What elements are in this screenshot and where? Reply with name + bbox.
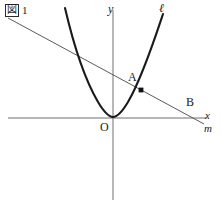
point-a-marker <box>139 88 144 93</box>
line-label-m: m <box>204 123 212 134</box>
figure-number: 1 <box>22 5 28 16</box>
y-axis-label: y <box>108 3 113 15</box>
figure-canvas: 図 1 y x ℓ m A B O <box>0 0 221 203</box>
point-a-label: A <box>128 71 137 83</box>
point-b-label: B <box>186 96 194 108</box>
x-axis-label: x <box>205 110 210 121</box>
curve-label-ell: ℓ <box>159 2 164 14</box>
figure-kanji-glyph: 図 <box>5 4 19 17</box>
origin-label: O <box>100 121 109 133</box>
line-m <box>8 18 204 124</box>
parabola-curve-ell <box>65 8 163 117</box>
figure-caption: 図 1 <box>5 4 28 17</box>
